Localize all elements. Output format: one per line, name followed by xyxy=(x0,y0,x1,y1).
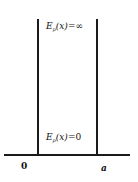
x-axis-baseline xyxy=(4,154,130,156)
energy-argument: (x)= xyxy=(56,132,76,142)
right-wall-line xyxy=(96,19,98,155)
energy-argument: (x)= xyxy=(56,21,76,31)
left-wall-line xyxy=(37,19,39,155)
potential-infinite-label: Ep(x)=∞ xyxy=(46,21,83,34)
energy-symbol: E xyxy=(46,21,53,31)
axis-tick-zero: 0 xyxy=(21,161,27,171)
energy-symbol: E xyxy=(46,132,53,142)
potential-zero-label: Ep(x)=0 xyxy=(46,132,81,145)
energy-value: ∞ xyxy=(75,21,83,31)
energy-value: 0 xyxy=(75,132,81,142)
axis-tick-a: a xyxy=(101,163,107,173)
